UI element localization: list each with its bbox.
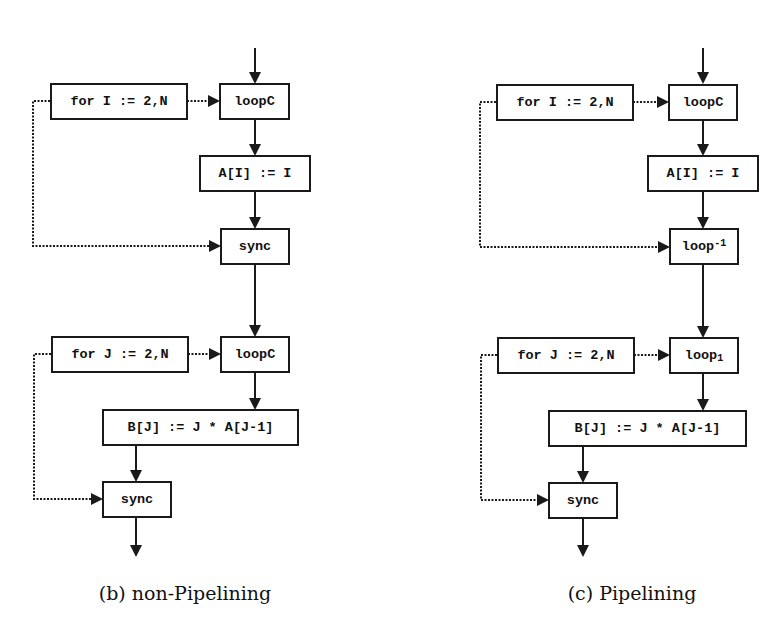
loop-one-script: 1 — [717, 353, 723, 364]
loop-one-node: loop1 — [669, 337, 739, 374]
loop-one-label: loop — [685, 348, 717, 363]
loop-top-node: loopC — [668, 84, 738, 121]
loop-inverse-script: -1 — [714, 238, 726, 249]
loop-inverse-node: loop-1 — [669, 228, 739, 265]
loop-inverse-label: loop — [682, 239, 714, 254]
panel-pipelining: for I := 2,N loopC A[I] := I loop-1 for … — [391, 0, 782, 642]
assign-b-node: B[J] := J * A[J-1] — [102, 409, 299, 446]
assign-a-node: A[I] := I — [199, 155, 311, 192]
loop-top-node: loopC — [219, 83, 290, 120]
loop-bottom-label: loopC — [235, 347, 276, 362]
for-i-node: for I := 2,N — [496, 84, 634, 121]
for-j-node: for J := 2,N — [497, 337, 635, 374]
panel-non-pipelining: for I := 2,N loopC A[I] := I sync for J … — [0, 0, 391, 642]
sync-mid-label: sync — [239, 239, 271, 254]
assign-a-node: A[I] := I — [647, 155, 759, 192]
sync-end-node: sync — [548, 482, 618, 519]
for-i-node: for I := 2,N — [50, 83, 188, 120]
loop-bottom-node: loopC — [220, 336, 290, 373]
assign-b-node: B[J] := J * A[J-1] — [548, 410, 747, 447]
for-j-node: for J := 2,N — [51, 336, 189, 373]
caption-non-pipelining: (b) non-Pipelining — [99, 582, 272, 604]
sync-end-node: sync — [102, 481, 172, 518]
sync-mid-node: sync — [220, 228, 290, 265]
caption-pipelining: (c) Pipelining — [568, 582, 697, 604]
